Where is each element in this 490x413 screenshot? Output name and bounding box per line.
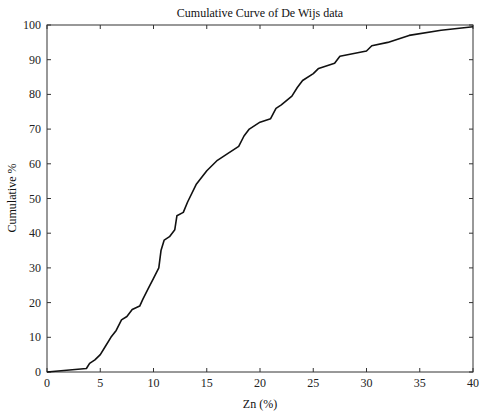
y-tick-label: 100 — [23, 18, 41, 32]
plot-border — [47, 25, 473, 372]
data-series — [47, 27, 473, 372]
y-axis-ticks: 0102030405060708090100 — [23, 18, 473, 379]
cumulative-curve-line — [47, 27, 473, 372]
y-tick-label: 50 — [29, 192, 41, 206]
y-tick-label: 10 — [29, 330, 41, 344]
x-tick-label: 30 — [361, 376, 373, 390]
x-axis-label: Zn (%) — [243, 397, 277, 411]
y-tick-label: 30 — [29, 261, 41, 275]
y-axis-label: Cumulative % — [5, 164, 19, 233]
x-tick-label: 10 — [148, 376, 160, 390]
x-tick-label: 0 — [44, 376, 50, 390]
cumulative-curve-chart: Cumulative Curve of De Wijs data 0510152… — [0, 0, 490, 413]
x-tick-label: 5 — [97, 376, 103, 390]
y-tick-label: 20 — [29, 296, 41, 310]
y-tick-label: 60 — [29, 157, 41, 171]
y-tick-label: 40 — [29, 226, 41, 240]
x-tick-label: 40 — [467, 376, 479, 390]
plot-frame — [47, 25, 473, 372]
x-tick-label: 35 — [414, 376, 426, 390]
y-tick-label: 70 — [29, 122, 41, 136]
chart-title: Cumulative Curve of De Wijs data — [177, 6, 344, 20]
y-tick-label: 0 — [35, 365, 41, 379]
y-tick-label: 80 — [29, 87, 41, 101]
x-tick-label: 20 — [254, 376, 266, 390]
x-tick-label: 15 — [201, 376, 213, 390]
y-tick-label: 90 — [29, 53, 41, 67]
x-tick-label: 25 — [307, 376, 319, 390]
x-axis-ticks: 0510152025303540 — [44, 25, 479, 390]
